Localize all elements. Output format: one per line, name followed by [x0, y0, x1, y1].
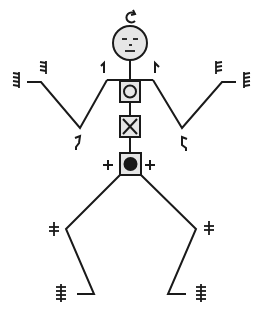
right-foot-bar-icon [196, 284, 206, 302]
left-hand-tick-icon [13, 72, 19, 88]
torso-box-circle [120, 81, 140, 102]
right-hand-tick-icon [244, 72, 250, 88]
head [113, 26, 147, 60]
filled-circle-icon [125, 158, 137, 170]
right-shoulder-hook-icon [155, 63, 159, 73]
torso-box-dot [120, 153, 141, 175]
left-knee-bar-icon [49, 222, 59, 236]
right-elbow-hook-icon [182, 137, 187, 151]
left-wrist-tick-icon [40, 61, 46, 74]
left-arm [27, 80, 107, 128]
right-wrist-tick-icon [216, 61, 222, 74]
left-shoulder-hook-icon [101, 63, 104, 73]
right-arm [153, 80, 236, 128]
right-leg [141, 175, 196, 294]
right-hip-plus-icon [145, 160, 155, 170]
right-knee-bar-icon [204, 221, 214, 235]
left-foot-bar-icon [56, 284, 66, 302]
rotate-arrow-icon [126, 10, 135, 22]
left-elbow-hook-icon [75, 136, 80, 150]
left-hip-plus-icon [103, 160, 113, 170]
torso-box-x [120, 116, 140, 137]
stick-figure [0, 0, 263, 314]
body-diagram [0, 0, 263, 314]
left-leg [66, 175, 120, 294]
